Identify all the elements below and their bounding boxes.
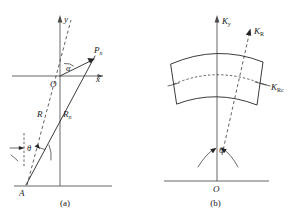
theta-curve-left [11, 155, 18, 161]
arrow-up-icon [215, 15, 220, 23]
theta-curve-right [49, 145, 51, 160]
point-Pn-label: Pn [93, 45, 103, 56]
KR-axis-dashed [222, 35, 249, 155]
dashed-line-R [27, 20, 71, 185]
origin-label-a: O [50, 79, 57, 89]
caption-b: (b) [142, 198, 289, 208]
Ky-axis-label: Ky [221, 16, 231, 27]
caption-a: (a) [0, 198, 138, 208]
arrow-up-icon [58, 15, 63, 23]
panel-b: Ky KR KRc θ O (b) [146, 0, 293, 217]
panel-b-drawing: Ky KR KRc θ O [146, 0, 293, 217]
x-axis-label: x [95, 74, 100, 84]
theta-arc-left [198, 149, 214, 167]
point-A-label: A [18, 188, 25, 198]
theta-arc-right [223, 149, 238, 167]
KR-axis-label: KR [253, 26, 264, 37]
KRc-leader-line [260, 83, 270, 86]
KRc-label: KRc [270, 82, 284, 93]
panel-a: y x O Pn R Rn α θ A (a) [0, 0, 146, 217]
angle-alpha-label: α [66, 63, 71, 73]
arrow-left-small-icon [35, 144, 41, 149]
arrow-up-right-icon [246, 29, 251, 36]
theta-arc-left-arrowhead [210, 148, 216, 153]
vector-Pn [60, 61, 92, 77]
origin-label-b: O [213, 184, 220, 194]
y-axis-label: y [63, 14, 68, 24]
angle-theta-label-a: θ [27, 143, 31, 153]
radius-Rn-label: Rn [62, 109, 72, 120]
panel-a-drawing: y x O Pn R Rn α θ A [0, 0, 146, 217]
figure-container: y x O Pn R Rn α θ A (a) [0, 0, 293, 217]
radius-R-label: R [36, 109, 43, 119]
angle-theta-label-b: θ [219, 145, 223, 155]
